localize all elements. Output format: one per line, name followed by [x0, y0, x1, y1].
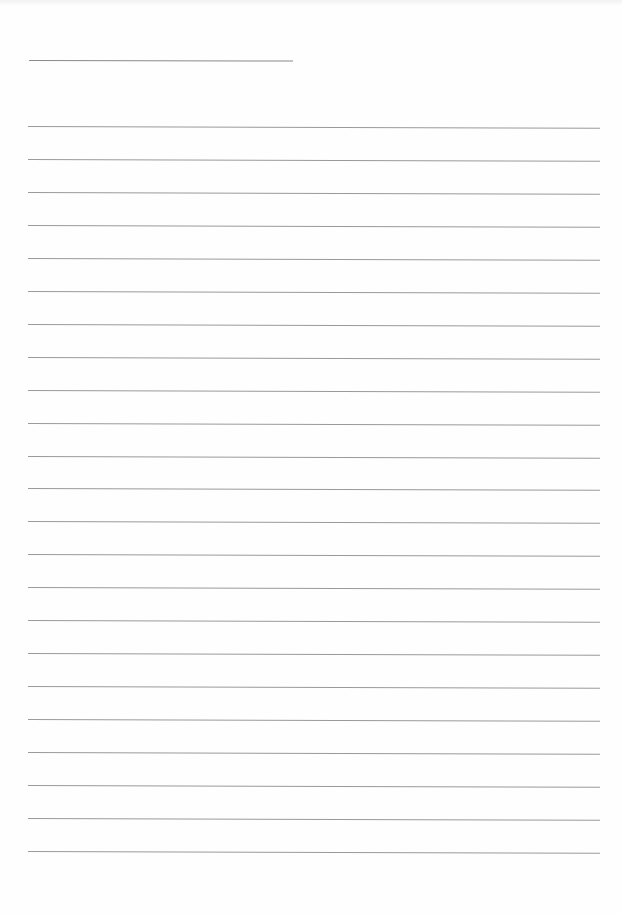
ruled-line: [28, 258, 600, 261]
ruled-line: [28, 587, 600, 590]
ruled-line: [28, 752, 600, 755]
ruled-line: [28, 456, 600, 459]
ruled-line: [28, 554, 600, 557]
ruled-line: [28, 324, 600, 327]
ruled-line: [28, 159, 600, 162]
ruled-line: [28, 357, 600, 360]
ruled-line: [28, 686, 600, 689]
ruled-line: [28, 851, 600, 854]
ruled-line: [28, 818, 600, 821]
lined-paper-sheet: [0, 0, 622, 914]
ruled-line: [28, 225, 600, 228]
ruled-line: [28, 620, 600, 623]
ruled-line: [28, 719, 600, 722]
ruled-line: [28, 192, 600, 195]
ruled-line: [28, 423, 600, 426]
ruled-line: [28, 653, 600, 656]
ruled-line: [28, 521, 600, 524]
title-underline: [29, 60, 293, 62]
scan-edge-shadow: [0, 0, 622, 6]
ruled-line: [28, 126, 600, 129]
ruled-line: [28, 291, 600, 294]
ruled-line: [28, 488, 600, 491]
ruled-line: [28, 390, 600, 393]
ruled-line: [28, 785, 600, 788]
